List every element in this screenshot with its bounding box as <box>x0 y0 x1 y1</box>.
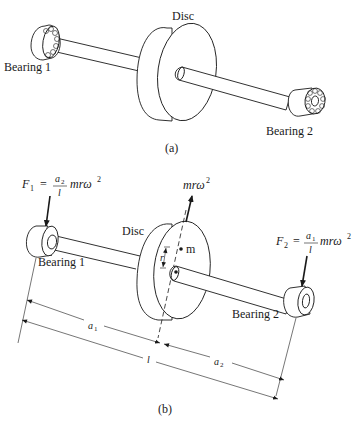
svg-text:2: 2 <box>61 178 65 186</box>
svg-text:1: 1 <box>312 235 316 243</box>
bearing-2-label-b: Bearing 2 <box>232 307 279 321</box>
svg-text:2: 2 <box>220 361 224 369</box>
caption-b: (b) <box>158 402 172 416</box>
svg-text:1: 1 <box>30 184 34 193</box>
svg-text:F: F <box>21 177 30 191</box>
force-f2-label: F 2 = a 1 l mrω 2 <box>275 230 351 255</box>
dimension-a1: a 1 <box>27 300 160 343</box>
bearing-2-label-a: Bearing 2 <box>266 124 313 138</box>
dimension-a2: a 2 <box>164 344 284 380</box>
bearing-1-label-a: Bearing 1 <box>4 60 51 74</box>
disc-label-a: Disc <box>172 9 194 23</box>
svg-text:2: 2 <box>97 175 101 184</box>
caption-a: (a) <box>165 141 178 155</box>
svg-text:r: r <box>160 252 164 263</box>
svg-text:1: 1 <box>94 325 98 333</box>
svg-text:mrω: mrω <box>70 177 92 191</box>
dimension-l: l <box>22 320 278 399</box>
bearing-1-label-b: Bearing 1 <box>38 255 85 269</box>
shaft-left-a <box>48 37 142 71</box>
bearing-2-b <box>284 286 316 317</box>
svg-text:a: a <box>55 173 60 184</box>
bearing-1-b <box>26 225 60 257</box>
force-f1-label: F 1 = a 2 l mrω 2 <box>21 173 101 198</box>
force-f1-arrow <box>46 196 50 226</box>
svg-text:=: = <box>40 177 47 191</box>
svg-text:F: F <box>275 234 284 248</box>
svg-text:2: 2 <box>284 241 288 250</box>
bearing-1-a <box>31 25 62 60</box>
figure-a: Bearing 1 Disc <box>4 9 327 155</box>
svg-text:2: 2 <box>347 232 351 241</box>
svg-text:a: a <box>306 230 311 241</box>
disc-label-b: Disc <box>122 224 144 238</box>
svg-text:l: l <box>147 354 150 365</box>
centrifugal-force-arrow <box>186 196 192 222</box>
svg-text:a: a <box>214 356 219 367</box>
mass-label: m <box>186 242 196 256</box>
mass-point <box>179 247 183 251</box>
figure-b: F 1 = a 2 l mrω 2 Bearing 1 Disc <box>18 173 351 416</box>
svg-text:=: = <box>293 234 300 248</box>
extension-line-right <box>276 318 296 396</box>
extension-line-left <box>18 258 36 343</box>
shaft-center-point <box>174 270 178 274</box>
force-f2-arrow <box>302 256 307 286</box>
rotor-diagram: Bearing 1 Disc <box>0 0 357 430</box>
svg-text:l: l <box>58 187 61 198</box>
centrifugal-force-label: mrω 2 <box>183 176 210 192</box>
svg-text:mrω: mrω <box>320 234 342 248</box>
svg-text:mrω: mrω <box>183 178 205 192</box>
svg-text:l: l <box>309 244 312 255</box>
svg-text:2: 2 <box>206 176 210 185</box>
svg-text:a: a <box>88 320 93 331</box>
bearing-2-a <box>288 87 326 116</box>
